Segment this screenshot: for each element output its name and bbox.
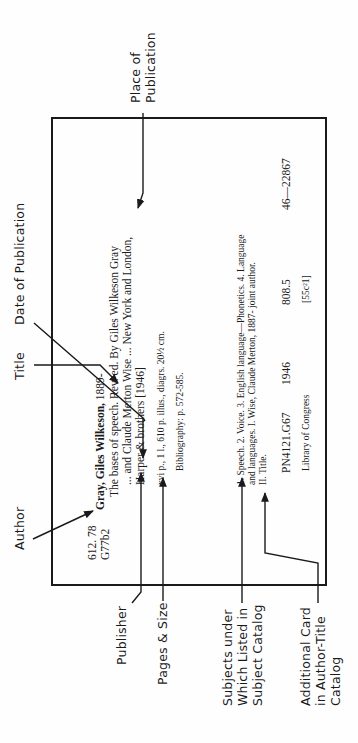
bibliography-note: Bibliography: p. 572-585. — [175, 372, 186, 471]
publisher-line: Harper & brothers [1946] — [134, 367, 147, 485]
label-publisher: Publisher — [114, 606, 129, 665]
dewey-number: 808.5 — [280, 279, 293, 305]
library-of-congress: Library of Congress — [301, 394, 312, 471]
place-pointer — [138, 113, 143, 208]
author-heading-line: Gray, Giles Wilkeson, 1889- — [94, 373, 107, 510]
card-number: 46—22867 — [280, 158, 293, 210]
lc-year: 1946 — [280, 362, 293, 385]
additional-card-pointer — [265, 493, 318, 603]
tracings-line-2: and languages. I. Wise, Claude Merton, 1… — [247, 262, 258, 485]
label-author: Author — [12, 507, 27, 550]
tracings-line-1: 1. Speech. 2. Voice. 3. English language… — [236, 234, 247, 485]
author-pointer — [33, 511, 93, 539]
author-dates: 1889- — [94, 373, 106, 400]
label-place-of-publication: Place of Publication — [128, 32, 158, 103]
call-number: 612. 78 G77b2 — [86, 526, 112, 561]
print-key: [55c²1] — [301, 275, 312, 303]
label-pages-and-size: Pages & Size — [155, 602, 170, 685]
label-date-of-publication: Date of Publication — [12, 203, 27, 325]
label-subjects: Subjects under Which Listed in Subject C… — [220, 604, 265, 706]
publisher-pointer — [132, 473, 141, 603]
label-title: Title — [12, 352, 27, 380]
label-additional-card: Additional Card in Author-Title Catalog — [298, 607, 343, 706]
author-heading: Gray, Giles Wilkeson, — [94, 403, 106, 510]
lc-class-number: PN4121.G67 — [280, 413, 293, 473]
title-line-2: ... and Claude Merton Wise ... New York … — [121, 237, 134, 485]
collation: xvi p., 1 l., 610 p. illus., diagrs. 20½… — [156, 331, 167, 485]
tracings-line-3: II. Title. — [258, 454, 269, 485]
catalog-card-diagram: Author Title Date of Publication Place o… — [0, 0, 358, 743]
title-line: The bases of speech. Rev. ed. By Giles W… — [108, 246, 121, 497]
